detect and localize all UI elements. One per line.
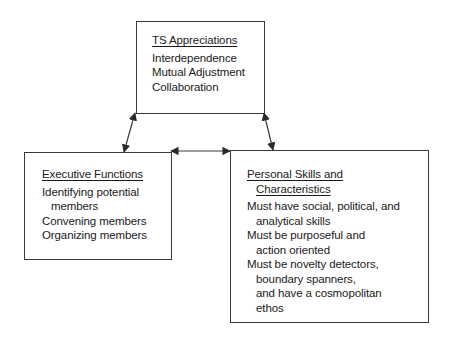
exec-item-identifying: Identifying potential (42, 185, 147, 200)
ts-item-interdependence: Interdependence (152, 51, 245, 66)
personal-item-novelty: Must be novelty detectors, (247, 257, 400, 272)
ts-item-mutual-adjustment: Mutual Adjustment (152, 65, 245, 80)
executive-functions-title: Executive Functions (42, 167, 147, 182)
personal-item-social-political-cont: analytical skills (247, 214, 400, 229)
exec-item-organizing: Organizing members (42, 228, 147, 243)
exec-item-convening: Convening members (42, 214, 147, 229)
arrow-ts-to-personal (264, 113, 273, 150)
personal-skills-title-line1: Personal Skills and (247, 167, 400, 182)
personal-skills-title-line2: Characteristics (247, 182, 400, 197)
ts-appreciations-title: TS Appreciations (152, 33, 245, 48)
personal-item-novelty-cont1: boundary spanners, (247, 272, 400, 287)
arrow-ts-to-executive (124, 113, 135, 152)
ts-item-collaboration: Collaboration (152, 80, 245, 95)
executive-functions-content: Executive Functions Identifying potentia… (42, 167, 147, 243)
personal-item-purposeful-cont: action oriented (247, 243, 400, 258)
personal-item-novelty-cont2: and have a cosmopolitan (247, 286, 400, 301)
personal-skills-content: Personal Skills and Characteristics Must… (247, 167, 400, 315)
personal-item-purposeful: Must be purposeful and (247, 228, 400, 243)
personal-item-novelty-cont3: ethos (247, 301, 400, 316)
personal-item-social-political: Must have social, political, and (247, 199, 400, 214)
ts-appreciations-content: TS Appreciations Interdependence Mutual … (152, 33, 245, 94)
exec-item-identifying-cont: members (42, 199, 147, 214)
